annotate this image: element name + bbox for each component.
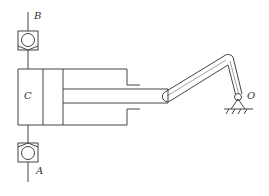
label-valve-b: B: [34, 10, 41, 21]
label-valve-a: A: [36, 165, 43, 176]
check-valve-a-icon: [18, 143, 38, 162]
check-valve-b-icon: [18, 31, 38, 50]
label-pivot-o: O: [247, 90, 255, 101]
piston-rod: [63, 89, 168, 103]
label-chamber-c: C: [24, 90, 32, 101]
crank-arm: [224, 54, 242, 96]
connecting-link: [162, 56, 228, 102]
hydraulic-cylinder: [18, 69, 140, 125]
